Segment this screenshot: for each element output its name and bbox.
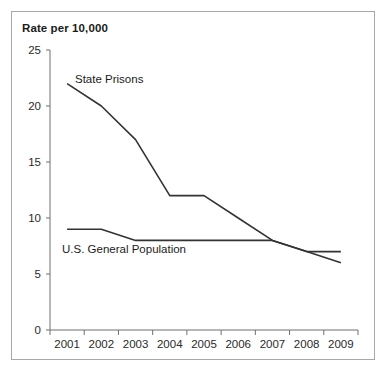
y-tick-label: 25 xyxy=(28,44,41,56)
plot-area: 0510152025 20012002200320042005200620072… xyxy=(0,0,390,375)
x-tick-label: 2008 xyxy=(294,338,320,350)
series-label-us-general-population: U.S. General Population xyxy=(62,243,186,255)
chart-figure: Rate per 10,000 0510152025 2001200220032… xyxy=(0,0,390,375)
series-label-state-prisons: State Prisons xyxy=(75,73,144,85)
data-series-group xyxy=(67,84,341,263)
x-tick-label: 2004 xyxy=(157,338,183,350)
series-labels-group: State PrisonsU.S. General Population xyxy=(62,73,186,255)
y-axis: 0510152025 xyxy=(28,44,50,336)
x-tick-label: 2002 xyxy=(89,338,115,350)
x-tick-label: 2001 xyxy=(54,338,80,350)
x-axis: 200120022003200420052006200720082009 xyxy=(50,330,358,350)
x-tick-label: 2009 xyxy=(328,338,354,350)
x-tick-label: 2003 xyxy=(123,338,149,350)
y-tick-label: 5 xyxy=(35,268,41,280)
x-tick-label: 2007 xyxy=(260,338,286,350)
x-tick-label: 2005 xyxy=(191,338,217,350)
y-tick-label: 15 xyxy=(28,156,41,168)
series-line-1 xyxy=(67,84,341,263)
y-tick-label: 20 xyxy=(28,100,41,112)
y-tick-label: 0 xyxy=(35,324,41,336)
y-tick-label: 10 xyxy=(28,212,41,224)
x-tick-label: 2006 xyxy=(225,338,251,350)
